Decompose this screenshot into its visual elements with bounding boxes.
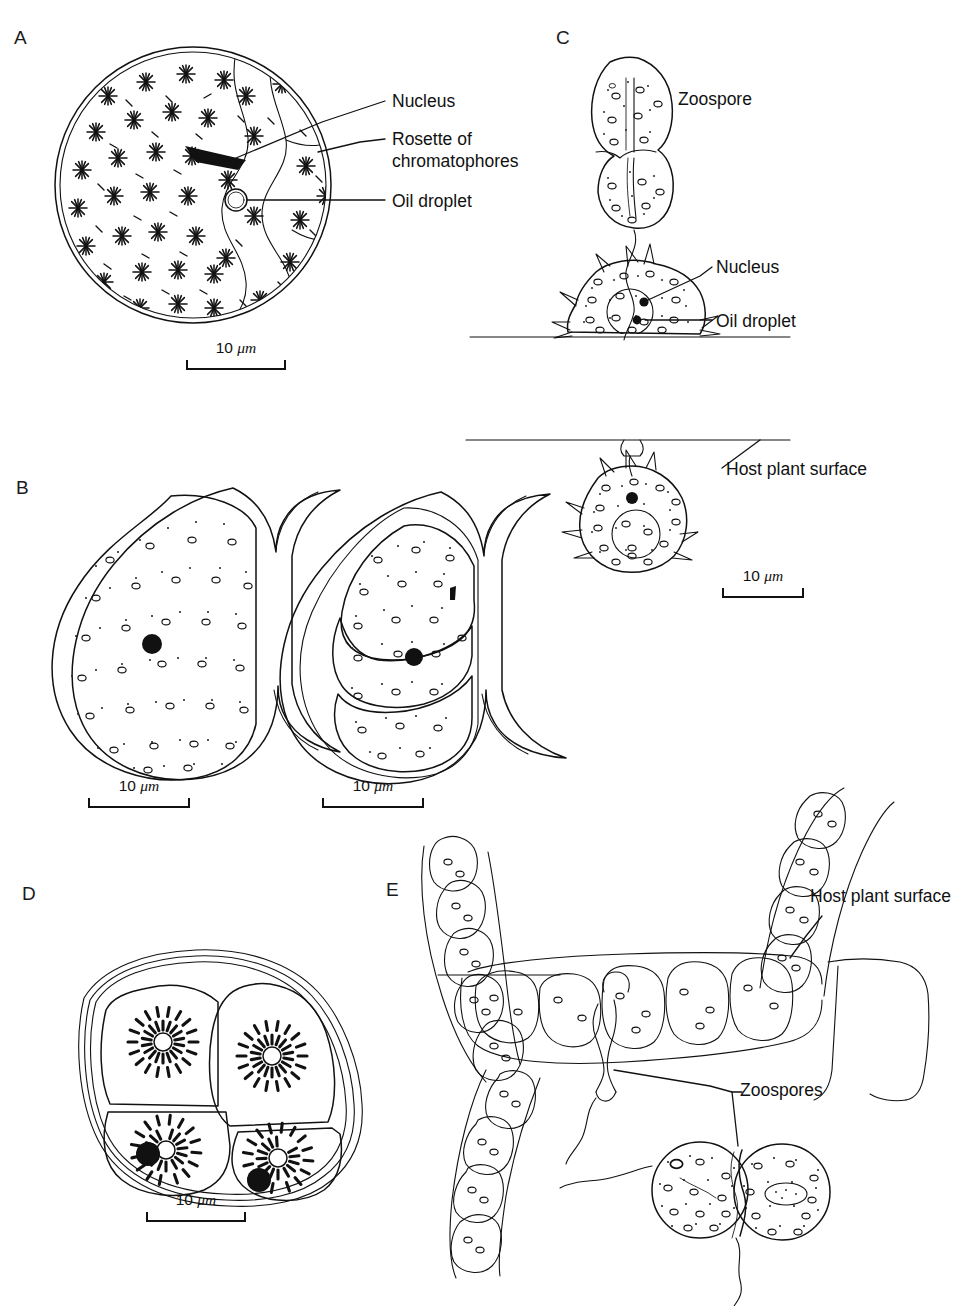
- panel-b-cell-left: [52, 488, 340, 780]
- panel-e-branch-upper-left: [422, 836, 524, 1082]
- panel-b-cell-right: [280, 492, 566, 784]
- panel-a-cell: [55, 47, 358, 333]
- panel-c-mid-oil-droplet: [633, 316, 642, 325]
- panel-e-filament: [422, 788, 929, 1306]
- label-panel-a-rosette-line2: chromatophores: [392, 150, 518, 172]
- panel-d-cell-1: [128, 1008, 198, 1077]
- label-panel-e-zoospores: Zoospores: [740, 1079, 823, 1101]
- panel-c-mid-nucleus: [639, 297, 648, 306]
- panel-a-oil-droplet: [225, 189, 247, 211]
- panel-d-sporangium: [79, 950, 363, 1207]
- label-panel-c-oil-droplet: Oil droplet: [716, 310, 796, 332]
- panel-e-flagella: [560, 1098, 741, 1306]
- scalebar-b-right-value: 10: [353, 777, 370, 794]
- label-panel-c-host-plant-surface: Host plant surface: [726, 458, 867, 480]
- label-panel-a-nucleus: Nucleus: [392, 90, 455, 112]
- panel-d-oil-droplet-2: [247, 1168, 271, 1192]
- panel-d-oil-droplet-1: [136, 1142, 160, 1166]
- scalebar-panel-d: 10 μm: [146, 1192, 246, 1222]
- panel-e-leaders: [614, 916, 822, 1146]
- panel-a-leaders: [236, 101, 385, 200]
- scalebar-panel-c: 10 μm: [722, 568, 804, 598]
- figure-caption: [0, 1292, 971, 1306]
- scalebar-panel-b-right: 10 μm: [322, 778, 424, 808]
- panel-e-branch-lower-left: [450, 1070, 540, 1278]
- scalebar-d-value: 10: [176, 1191, 193, 1208]
- panel-e-horizontal-filament: [461, 953, 822, 1064]
- panel-d-cell-4: [243, 1123, 312, 1192]
- scalebar-panel-b-left: 10 μm: [88, 778, 190, 808]
- label-panel-a-oil-droplet: Oil droplet: [392, 190, 472, 212]
- panel-c-bottom-nucleus: [626, 492, 638, 504]
- scalebar-c-unit: μm: [764, 567, 783, 584]
- panel-d-cell-3: [131, 1115, 200, 1184]
- label-panel-c-nucleus: Nucleus: [716, 256, 779, 278]
- figure-drawing: [0, 0, 971, 1306]
- scalebar-d-unit: μm: [197, 1191, 216, 1208]
- label-panel-a-rosette-line1: Rosette of: [392, 128, 472, 150]
- scalebar-b-right-unit: μm: [374, 777, 393, 794]
- scalebar-panel-a: 10 μm: [186, 340, 286, 370]
- scalebar-a-value: 10: [216, 339, 233, 356]
- scalebar-b-left-unit: μm: [140, 777, 159, 794]
- label-panel-e-host-plant-surface: Host plant surface: [810, 885, 951, 907]
- panel-d-cell-2: [237, 1022, 307, 1091]
- scalebar-c-value: 10: [743, 567, 760, 584]
- scalebar-a-unit: μm: [237, 339, 256, 356]
- panel-c-zoospore: [592, 57, 674, 340]
- label-panel-c-zoospore: Zoospore: [678, 88, 752, 110]
- scalebar-b-left-value: 10: [119, 777, 136, 794]
- panel-e-discharge-tube: [593, 972, 629, 1101]
- figure-root: A B C D E: [0, 0, 971, 1306]
- panel-b-right-nucleus: [405, 648, 423, 666]
- panel-b-left-nucleus: [142, 634, 162, 654]
